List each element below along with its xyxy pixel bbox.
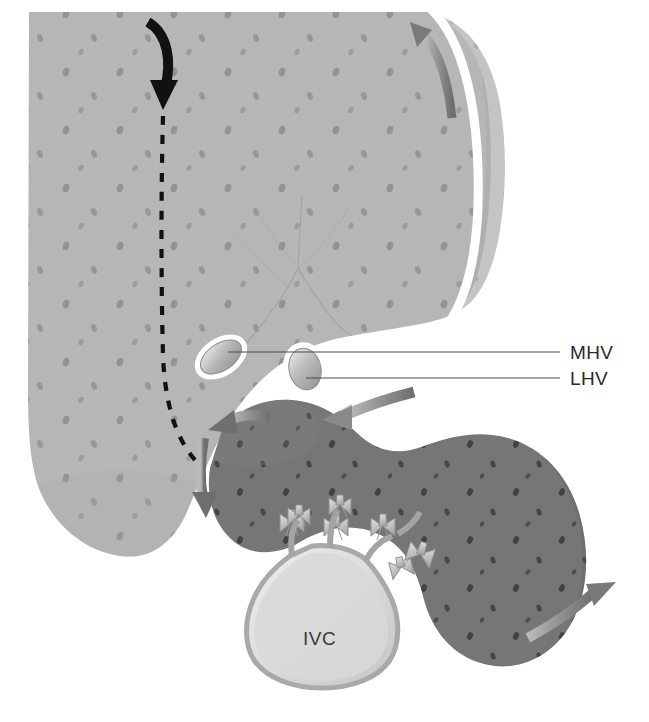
label-lhv: LHV (570, 368, 608, 389)
anatomy-figure: MHV LHV IVC (0, 0, 649, 722)
label-mhv: MHV (570, 342, 613, 363)
illustration-canvas: MHV LHV IVC (0, 0, 649, 722)
label-ivc: IVC (303, 628, 336, 649)
